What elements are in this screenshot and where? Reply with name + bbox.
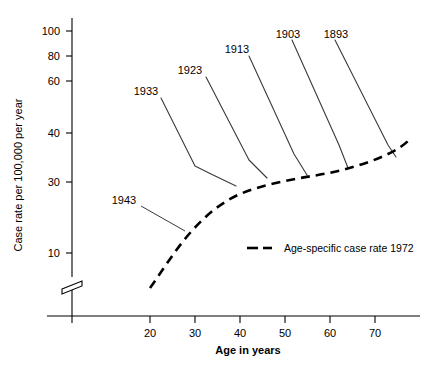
y-tick-label-10: 10	[48, 247, 60, 259]
legend-label-1972: Age-specific case rate 1972	[284, 242, 414, 254]
legend: Age-specific case rate 1972	[247, 242, 414, 254]
x-tick-label-60: 60	[324, 327, 336, 339]
cohort-label-1933: 1933	[134, 85, 158, 97]
cohort-line-1903	[292, 40, 348, 168]
cohort-line-1923	[206, 77, 267, 178]
y-tick-label-30: 30	[48, 176, 60, 188]
cohort-label-1943: 1943	[112, 194, 136, 206]
x-tick-group: 20 30 40 50 60 70	[72, 316, 381, 339]
x-axis-title: Age in years	[215, 344, 280, 356]
y-tick-group: 100 80 60 40 30 10	[42, 25, 72, 259]
cohort-label-group: 1933 1923 1913 1903 1893 1943	[112, 28, 348, 206]
leader-line-1943	[141, 206, 185, 231]
y-tick-label-80: 80	[48, 50, 60, 62]
axis-group	[47, 18, 420, 316]
age-specific-rate-curve-1972	[150, 140, 409, 288]
x-tick-label-50: 50	[279, 327, 291, 339]
y-axis-title: Case rate per 100,000 per year	[12, 98, 24, 251]
x-tick-label-70: 70	[369, 327, 381, 339]
y-tick-label-60: 60	[48, 75, 60, 87]
cohort-label-1903: 1903	[276, 28, 300, 40]
y-tick-label-40: 40	[48, 127, 60, 139]
x-tick-label-30: 30	[189, 327, 201, 339]
cohort-label-1913: 1913	[225, 43, 249, 55]
chart-canvas: 100 80 60 40 30 10 20 30 40 50 60 70 Age…	[0, 0, 434, 365]
x-tick-label-40: 40	[234, 327, 246, 339]
y-tick-label-100: 100	[42, 25, 60, 37]
cohort-label-1893: 1893	[324, 28, 348, 40]
cohort-line-1893	[335, 40, 396, 157]
cohort-line-1933	[161, 98, 236, 186]
x-tick-label-20: 20	[144, 327, 156, 339]
cohort-line-1913	[249, 56, 307, 175]
cohort-label-1923: 1923	[178, 64, 202, 76]
cohort-case-rate-chart: 100 80 60 40 30 10 20 30 40 50 60 70 Age…	[0, 0, 434, 365]
